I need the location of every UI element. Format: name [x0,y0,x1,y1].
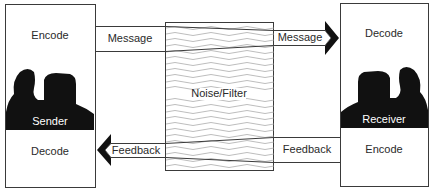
sender-name-label: Sender [5,115,95,127]
sender-encode-label: Encode [5,29,95,41]
receiver-decode-label: Decode [340,27,428,39]
message-label-left: Message [96,32,164,44]
sender-decode-label: Decode [5,145,95,157]
feedback-label-left: Feedback [108,144,164,156]
receiver-encode-label: Encode [340,143,428,155]
feedback-label-right: Feedback [274,143,340,155]
noise-filter-label: Noise/Filter [165,87,273,99]
receiver-name-label: Receiver [340,113,428,125]
message-label-right: Message [274,31,326,43]
